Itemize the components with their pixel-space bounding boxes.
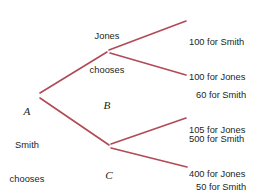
node-a-label: A Smith chooses xyxy=(0,82,54,192)
payoff-2-smith: 60 for Smith xyxy=(189,90,272,102)
node-a-actor-line1: Smith xyxy=(0,140,54,151)
node-b-actor-line1: Jones xyxy=(68,31,146,42)
payoff-3-smith: 500 for Smith xyxy=(189,134,272,146)
payoff-label-4: 50 for Smith 420 for Jones xyxy=(189,159,272,192)
payoff-4-smith: 50 for Smith xyxy=(189,182,272,192)
node-a-actor-line2: chooses xyxy=(0,174,54,185)
node-c-label: C Jones chooses xyxy=(70,146,148,192)
game-tree-figure: Jones chooses B A Smith chooses C Jones … xyxy=(0,0,272,192)
node-c-letter: C xyxy=(70,169,148,181)
payoff-1-smith: 100 for Smith xyxy=(189,37,272,49)
node-b-actor-line2: chooses xyxy=(68,65,146,76)
node-b-letter: B xyxy=(68,99,146,111)
node-b-label: Jones chooses B xyxy=(68,8,146,134)
node-a-letter: A xyxy=(0,105,54,117)
